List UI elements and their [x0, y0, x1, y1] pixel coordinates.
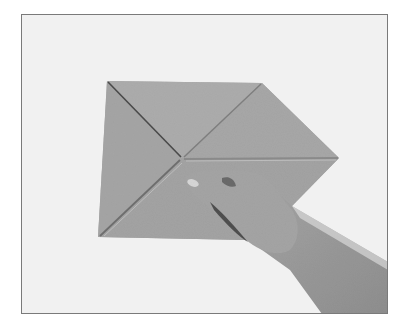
- photo-frame: [0, 0, 406, 331]
- origami-photo: [0, 0, 406, 331]
- crease-horizontal: [184, 158, 338, 159]
